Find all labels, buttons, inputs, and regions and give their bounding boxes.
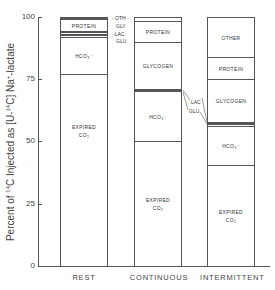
- segment-glycogen: GLYCOGEN: [135, 42, 181, 89]
- segment-expired-co2: EXPIRED CO₂: [208, 165, 254, 266]
- callout-glu: GLU: [116, 38, 126, 44]
- y-tick-50: 50: [13, 136, 35, 145]
- callout-glu-2: GLU: [189, 108, 199, 114]
- stacked-bar-chart: Percent of 14C Injected as [U-14C] Na+-l…: [0, 0, 275, 290]
- x-category-intermittent: INTERMITTENT: [200, 273, 264, 282]
- y-tick-0: 0: [13, 261, 35, 270]
- bar-continuous: PROTEIN GLYCOGEN HCO₃⁻ EXPIRED CO₂: [134, 17, 182, 266]
- callout-lac: -LAC: [113, 31, 124, 37]
- tick-mark: [38, 17, 42, 18]
- segment-protein: PROTEIN: [208, 57, 254, 79]
- segment-hco3: HCO₃⁻: [208, 126, 254, 165]
- tick-mark: [38, 141, 42, 142]
- segment-protein: PROTEIN: [61, 19, 107, 31]
- segment-glycogen: GLYCOGEN: [208, 79, 254, 122]
- segment-hco3: HCO₃⁻: [61, 37, 107, 74]
- x-category-continuous: CONTINUOUS: [124, 273, 194, 282]
- segment-hco3: HCO₃⁻: [135, 91, 181, 141]
- segment-other: OTHER: [208, 17, 254, 57]
- callout-lac-2: LAC: [191, 99, 201, 105]
- callout-gly: GLY: [116, 23, 126, 29]
- y-tick-100: 100: [13, 12, 35, 21]
- segment-lac: [61, 34, 107, 36]
- x-category-rest: REST: [60, 273, 108, 282]
- segment-expired-co2: EXPIRED CO₂: [61, 74, 107, 266]
- y-tick-75: 75: [13, 74, 35, 83]
- tick-mark: [38, 204, 42, 205]
- segment-protein: PROTEIN: [135, 21, 181, 42]
- y-tick-25: 25: [13, 199, 35, 208]
- callout-oth: - OTH -: [112, 15, 129, 21]
- bar-intermittent: OTHER PROTEIN GLYCOGEN HCO₃⁻ EXPIRED CO₂: [207, 17, 255, 266]
- bar-rest: PROTEIN HCO₃⁻ EXPIRED CO₂: [60, 17, 108, 266]
- x-axis: [38, 266, 270, 267]
- segment-expired-co2: EXPIRED CO₂: [135, 141, 181, 266]
- tick-mark: [38, 79, 42, 80]
- segment-gly: [61, 31, 107, 33]
